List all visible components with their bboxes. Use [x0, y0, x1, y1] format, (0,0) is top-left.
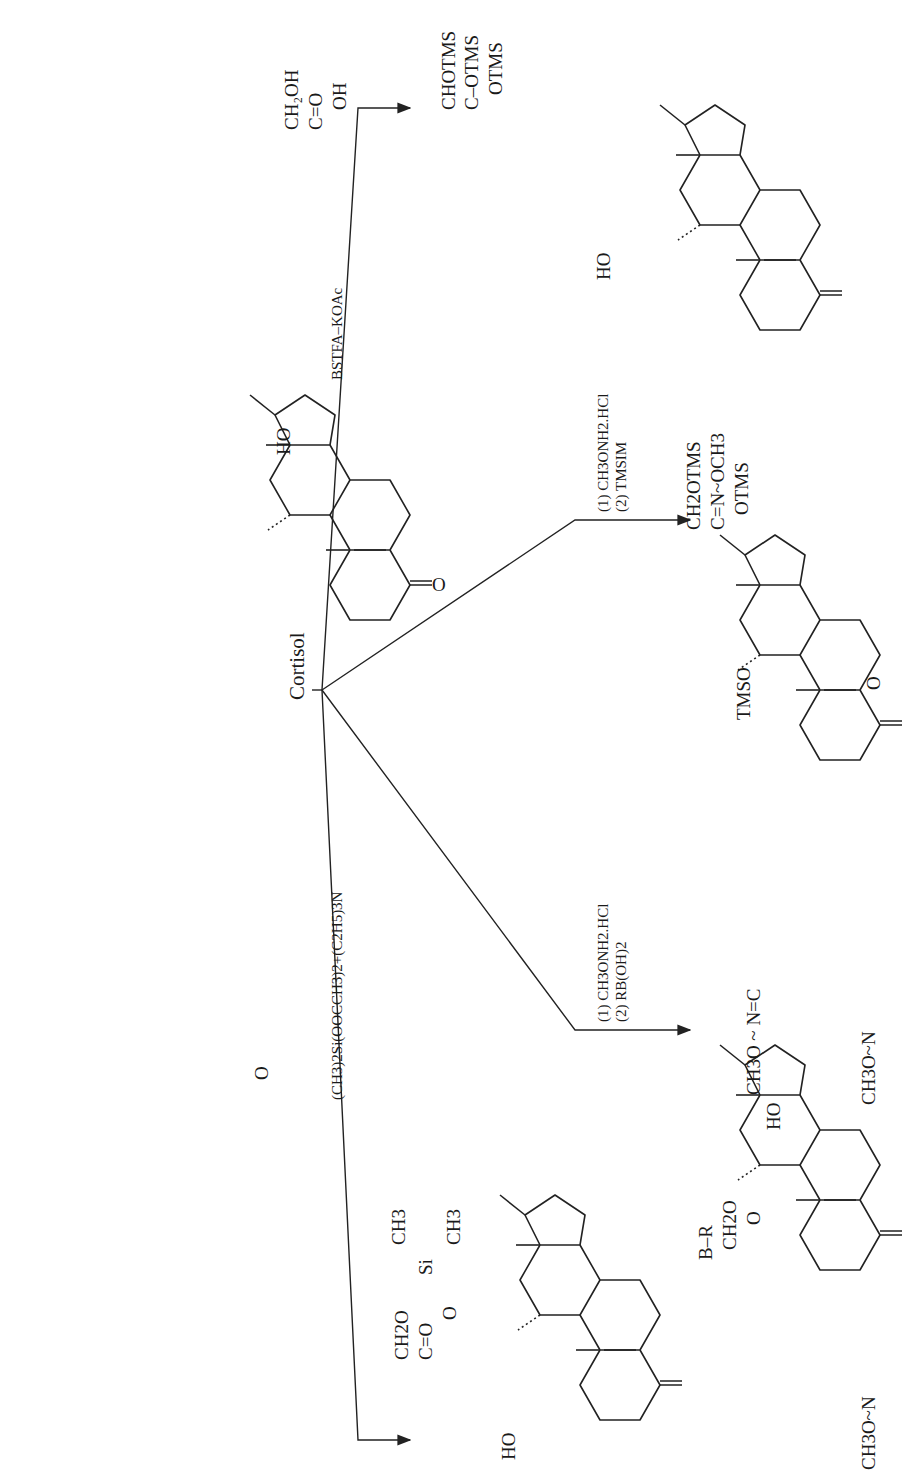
svg-text:O: O — [432, 574, 446, 595]
product-bstfa-structure — [660, 105, 842, 330]
cortisol-c3-oxo: O — [251, 1066, 272, 1080]
product-siliconide-co: C=O — [415, 1323, 436, 1360]
product-siliconide-ho: HO — [498, 1433, 519, 1460]
arrow-mo-tms — [322, 520, 690, 690]
cortisol-ho: HO — [273, 428, 294, 455]
product-mo-boronate-ho: HO — [763, 1103, 784, 1130]
product-mo-tms-c3-oxime: CH3O~N — [858, 1031, 879, 1105]
product-mo-tms-c-n-och3: C=N~OCH3 — [707, 433, 728, 530]
product-mo-boronate-ring-right: O — [743, 1211, 764, 1225]
cortisol-co: C=O — [305, 93, 326, 130]
cortisol-label: Cortisol — [285, 632, 309, 700]
product-bstfa-chotms: CHOTMS — [438, 31, 459, 110]
product-mo-tms-otms: OTMS — [731, 462, 752, 515]
reagent-mo-boronate-1: (1) CH3ONH2.HCl — [595, 904, 612, 1022]
cortisol-oh: OH — [329, 82, 350, 110]
reagent-mo-tms-2: (2) TMSIM — [613, 442, 630, 512]
arrow-bstfa — [322, 108, 410, 690]
reagent-mo-tms-1: (1) CH3ONH2.HCl — [595, 394, 612, 512]
cortisol-ch2oh: CH₂OH — [281, 69, 302, 130]
product-mo-boronate-side-chain: CH3O ~ N=C — [743, 988, 764, 1095]
reagent-mo-boronate-2: (2) RB(OH)2 — [613, 942, 630, 1022]
product-siliconide-ch2o: CH2O — [391, 1310, 412, 1360]
product-mo-tms-tmso: TMSO — [733, 667, 754, 720]
product-siliconide-si: Si — [415, 1259, 436, 1275]
reagent-bstfa: BSTFA–KOAc — [329, 287, 345, 380]
product-mo-boronate-c3-oxime: CH3O~N — [858, 1396, 879, 1470]
product-bstfa-c-otms: C–OTMS — [461, 35, 482, 110]
product-siliconide-structure — [500, 1195, 682, 1420]
product-mo-boronate-ring-left: CH2O — [719, 1200, 740, 1250]
product-mo-boronate-ring-top: B–R — [695, 1225, 716, 1260]
reaction-scheme: O CH₂OH C=O OH HO O Cortisol BSTFA–KOAc … — [0, 0, 911, 1481]
reagent-siliconide: (CH3)2Si(OOCCH3)2+(C2H5)3N — [329, 891, 346, 1100]
product-bstfa-otms: OTMS — [485, 42, 506, 95]
product-siliconide-ch3-a: CH3 — [388, 1209, 409, 1245]
product-mo-tms-structure — [720, 535, 902, 760]
product-bstfa-ho: HO — [593, 253, 614, 280]
product-siliconide-ch3-b: CH3 — [443, 1209, 464, 1245]
product-mo-tms-ch2otms: CH2OTMS — [683, 441, 704, 530]
product-siliconide-o: O — [439, 1306, 460, 1320]
arrow-mo-boronate — [322, 690, 690, 1030]
